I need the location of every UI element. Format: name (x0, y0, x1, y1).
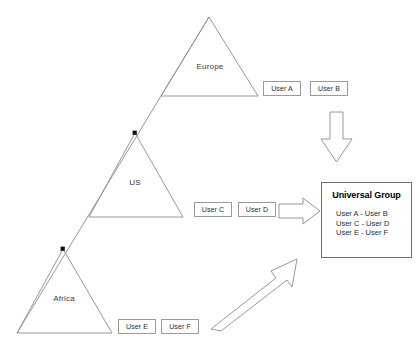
triangle-africa-outline (17, 249, 112, 333)
user-chip-user-d[interactable]: User D (238, 202, 276, 217)
triangle-us-outline (89, 133, 183, 217)
region-label-us: US (110, 178, 160, 187)
universal-group-panel[interactable]: Universal Group User A - User B User C -… (321, 182, 412, 258)
universal-group-member-row: User A - User B (336, 209, 411, 219)
user-chip-user-a[interactable]: User A (263, 81, 301, 96)
arrow-down-icon (321, 112, 352, 162)
arrow-right-icon (279, 198, 320, 224)
universal-group-member-list: User A - User B User C - User D User E -… (322, 209, 411, 238)
hierarchy-spine-line (17, 17, 209, 333)
triangle-europe-outline (161, 17, 258, 96)
universal-group-member-row: User E - User F (336, 228, 411, 238)
triangle-europe (161, 17, 258, 96)
user-chip-user-b[interactable]: User B (310, 81, 348, 96)
universal-group-member-row: User C - User D (336, 219, 411, 229)
junction-dot-africa (61, 247, 65, 251)
user-chip-user-e[interactable]: User E (118, 319, 156, 334)
junction-dot-us (133, 131, 137, 135)
user-chip-user-c[interactable]: User C (194, 202, 232, 217)
universal-group-title: Universal Group (322, 190, 411, 200)
region-label-africa: Africa (38, 294, 90, 303)
arrow-diagonal-icon (211, 259, 297, 331)
region-label-europe: Europe (183, 62, 237, 71)
diagram-canvas: Europe US Africa User A User B User C Us… (0, 0, 420, 349)
triangle-africa (17, 249, 112, 333)
user-chip-user-f[interactable]: User F (161, 319, 199, 334)
triangle-us (89, 133, 183, 217)
